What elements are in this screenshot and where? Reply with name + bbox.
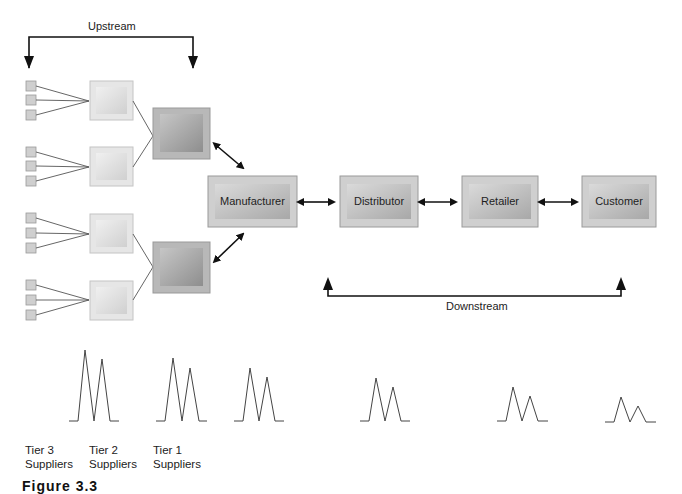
node-distributor: Distributor	[340, 195, 418, 207]
downstream-bracket	[323, 277, 626, 296]
node-retailer: Retailer	[462, 195, 538, 207]
tier3-line1: Tier 3	[25, 443, 73, 457]
tier2-label: Tier 2 Suppliers	[89, 443, 137, 471]
tier1-line2: Suppliers	[153, 457, 201, 471]
tier2-line1: Tier 2	[89, 443, 137, 457]
upstream-label: Upstream	[88, 20, 136, 32]
downstream-label: Downstream	[446, 300, 508, 312]
tier1-label: Tier 1 Suppliers	[153, 443, 201, 471]
demand-variation-curves	[69, 350, 656, 422]
figure-caption: Figure 3.3	[22, 478, 98, 494]
tier3-line2: Suppliers	[25, 457, 73, 471]
tier3-suppliers	[26, 81, 89, 320]
tier1-suppliers	[153, 108, 210, 293]
tier1-line1: Tier 1	[153, 443, 201, 457]
tier2-line2: Suppliers	[89, 457, 137, 471]
tier3-label: Tier 3 Suppliers	[25, 443, 73, 471]
upstream-bracket	[24, 37, 198, 69]
tier2-suppliers	[90, 81, 153, 320]
node-customer: Customer	[582, 195, 656, 207]
node-manufacturer: Manufacturer	[208, 195, 297, 207]
